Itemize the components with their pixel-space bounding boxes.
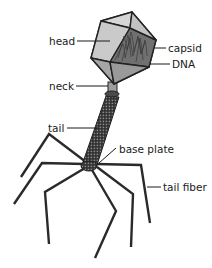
label-tail: tail — [48, 122, 64, 134]
label-head: head — [49, 35, 75, 47]
head-capsid — [91, 12, 156, 84]
label-neck: neck — [49, 80, 75, 92]
label-tail-fiber: tail fiber — [163, 181, 207, 193]
tail-fiber-4 — [92, 170, 116, 258]
base-plate — [81, 161, 97, 171]
neck — [105, 82, 119, 97]
bacteriophage-diagram: head capsid DNA neck tail base plate tai… — [0, 0, 212, 268]
tail — [81, 96, 119, 171]
tail-fiber-2 — [14, 163, 85, 204]
label-base-plate: base plate — [119, 143, 174, 155]
tail-fiber-3 — [45, 168, 85, 244]
label-capsid: capsid — [168, 42, 202, 54]
tail-fiber-1 — [21, 134, 86, 177]
label-dna: DNA — [172, 58, 196, 70]
